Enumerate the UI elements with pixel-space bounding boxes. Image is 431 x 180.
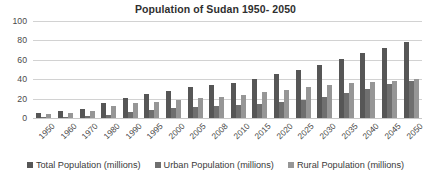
plot-area	[33, 21, 422, 118]
population-bar-chart: Population of Sudan 1950- 2050 020406080…	[0, 0, 431, 180]
bar-group	[400, 21, 422, 118]
x-axis-tick-label: 2005	[188, 121, 208, 141]
x-axis-tick-label: 2050	[404, 121, 424, 141]
bar-rural	[284, 90, 289, 118]
bar-groups	[33, 21, 422, 118]
bar-group	[119, 21, 141, 118]
legend-swatch-urban	[155, 162, 161, 168]
bar-rural	[414, 79, 419, 118]
legend-label: Total Population (millions)	[36, 160, 141, 170]
bar-group	[314, 21, 336, 118]
legend-item[interactable]: Rural Population (millions)	[288, 160, 404, 170]
bar-rural	[219, 97, 224, 118]
y-axis-tick-label: 40	[17, 74, 27, 84]
x-axis-tick-label: 2020	[274, 121, 294, 141]
bar-rural	[198, 98, 203, 118]
y-axis-tick-label: 100	[13, 16, 28, 26]
bar-group	[163, 21, 185, 118]
y-axis-tick-label: 80	[17, 35, 27, 45]
legend-swatch-rural	[288, 162, 294, 168]
bar-rural	[262, 92, 267, 118]
bar-rural	[370, 82, 375, 118]
x-axis-tick-label: 1970	[80, 121, 100, 141]
x-axis: 1950196019701980199019952000200520082010…	[33, 119, 422, 157]
bar-rural	[111, 106, 116, 118]
x-axis-tick-label: 2045	[382, 121, 402, 141]
bar-group	[33, 21, 55, 118]
legend-item[interactable]: Urban Population (millions)	[155, 160, 274, 170]
bar-group	[249, 21, 271, 118]
y-axis: 020406080100	[0, 21, 30, 118]
x-axis-tick-label: 2035	[339, 121, 359, 141]
bar-group	[206, 21, 228, 118]
bar-group	[357, 21, 379, 118]
bar-rural	[90, 111, 95, 118]
bar-rural	[133, 103, 138, 118]
bar-group	[141, 21, 163, 118]
x-axis-tick-label: 2010	[231, 121, 251, 141]
bar-group	[184, 21, 206, 118]
bar-rural	[241, 95, 246, 118]
bar-rural	[176, 100, 181, 118]
y-axis-tick-label: 20	[17, 94, 27, 104]
x-axis-tick-label: 1950	[37, 121, 57, 141]
y-axis-tick-label: 0	[22, 113, 27, 123]
legend-label: Rural Population (millions)	[297, 160, 404, 170]
bar-group	[98, 21, 120, 118]
x-axis-tick-label: 2000	[166, 121, 186, 141]
bar-group	[292, 21, 314, 118]
chart-title: Population of Sudan 1950- 2050	[0, 3, 431, 15]
x-axis-tick-label: 1980	[101, 121, 121, 141]
x-axis-tick-label: 1960	[58, 121, 78, 141]
bar-rural	[68, 113, 73, 118]
x-axis-tick-label: 1990	[123, 121, 143, 141]
bar-group	[55, 21, 77, 118]
legend-swatch-total	[27, 162, 33, 168]
bar-rural	[46, 114, 51, 118]
bar-rural	[392, 81, 397, 118]
bar-group	[379, 21, 401, 118]
legend-item[interactable]: Total Population (millions)	[27, 160, 141, 170]
bar-group	[271, 21, 293, 118]
bar-rural	[349, 83, 354, 118]
chart-legend: Total Population (millions)Urban Populat…	[0, 160, 431, 170]
x-axis-tick-label: 2008	[210, 121, 230, 141]
bar-rural	[154, 102, 159, 118]
y-axis-tick-label: 60	[17, 55, 27, 65]
x-axis-tick-label: 1995	[145, 121, 165, 141]
bar-group	[336, 21, 358, 118]
x-axis-tick-label: 2030	[318, 121, 338, 141]
x-axis-tick-label: 2015	[253, 121, 273, 141]
bar-rural	[306, 87, 311, 118]
bar-rural	[327, 85, 332, 118]
bar-group	[227, 21, 249, 118]
bar-group	[76, 21, 98, 118]
legend-label: Urban Population (millions)	[164, 160, 274, 170]
x-axis-tick-label: 2040	[361, 121, 381, 141]
x-axis-tick-label: 2025	[296, 121, 316, 141]
